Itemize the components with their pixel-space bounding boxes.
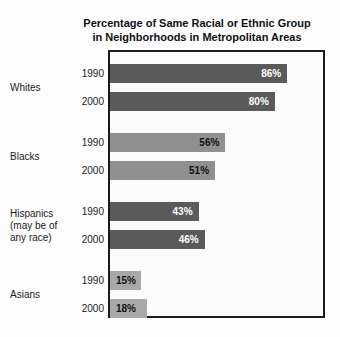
group-label: Blacks xyxy=(10,151,88,163)
bar: 80% xyxy=(110,92,275,111)
group-label-line: Asians xyxy=(10,289,88,301)
bar-fill: 43% xyxy=(110,202,199,221)
bar-fill: 51% xyxy=(110,161,215,180)
bar-row: 200018% xyxy=(0,299,340,318)
group-label: Asians xyxy=(10,289,88,301)
bar-row: 200080% xyxy=(0,92,340,111)
bar: 43% xyxy=(110,202,199,221)
bar-fill: 80% xyxy=(110,92,275,111)
year-label: 1990 xyxy=(58,64,104,83)
bar-rows-container: 199086%200080%Whites199056%200051%Blacks… xyxy=(0,50,340,318)
bar-row: 200051% xyxy=(0,161,340,180)
group-label-line: Hispanics xyxy=(10,208,88,220)
chart-figure: Percentage of Same Racial or Ethnic Grou… xyxy=(0,0,340,337)
year-label: 2000 xyxy=(58,161,104,180)
group-label: Whites xyxy=(10,82,88,94)
year-label: 2000 xyxy=(58,92,104,111)
group-label-line: (may be of xyxy=(10,220,88,232)
year-label: 2000 xyxy=(58,299,104,318)
bar: 15% xyxy=(110,271,141,290)
year-label: 1990 xyxy=(58,271,104,290)
bar-fill: 86% xyxy=(110,64,287,83)
group-label-line: any race) xyxy=(10,232,88,244)
bar-value-label: 18% xyxy=(116,299,136,318)
bar-row: 199015% xyxy=(0,271,340,290)
chart-title: Percentage of Same Racial or Ethnic Grou… xyxy=(66,16,328,44)
bar-row: 199086% xyxy=(0,64,340,83)
group-label: Hispanics(may be ofany race) xyxy=(10,208,88,244)
chart-title-line-2: in Neighborhoods in Metropolitan Areas xyxy=(66,30,328,44)
bar: 51% xyxy=(110,161,215,180)
bar: 56% xyxy=(110,133,225,152)
group-label-line: Blacks xyxy=(10,151,88,163)
bar-fill: 18% xyxy=(110,299,147,318)
bar: 18% xyxy=(110,299,147,318)
bar-value-label: 15% xyxy=(116,271,136,290)
chart-title-line-1: Percentage of Same Racial or Ethnic Grou… xyxy=(66,16,328,30)
bar-value-label: 86% xyxy=(261,64,281,83)
bar-value-label: 80% xyxy=(249,92,269,111)
year-label: 1990 xyxy=(58,133,104,152)
bar: 86% xyxy=(110,64,287,83)
bar-value-label: 56% xyxy=(199,133,219,152)
bar-fill: 46% xyxy=(110,230,205,249)
group-label-line: Whites xyxy=(10,82,88,94)
bar-row: 199056% xyxy=(0,133,340,152)
bar-fill: 56% xyxy=(110,133,225,152)
bar-fill: 15% xyxy=(110,271,141,290)
bar-value-label: 43% xyxy=(173,202,193,221)
bar-value-label: 46% xyxy=(179,230,199,249)
bar: 46% xyxy=(110,230,205,249)
bar-value-label: 51% xyxy=(189,161,209,180)
